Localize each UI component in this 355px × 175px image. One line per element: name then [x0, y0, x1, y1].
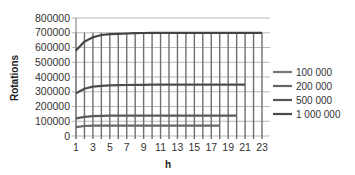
x-tick-label: 17 — [205, 141, 217, 153]
y-tick-label: 100000 — [35, 115, 70, 127]
y-tick-label: 500000 — [35, 56, 70, 68]
y-tick-label: 600000 — [35, 41, 70, 53]
series-line — [76, 126, 220, 128]
x-tick-label: 13 — [172, 141, 184, 153]
y-tick-label: 300000 — [35, 85, 70, 97]
x-tick-label: 19 — [222, 141, 234, 153]
legend: 100 000200 000500 0001 000 000 — [273, 67, 341, 120]
x-tick-label: 3 — [90, 141, 96, 153]
x-tick-label: 7 — [124, 141, 130, 153]
legend-label: 200 000 — [296, 81, 333, 92]
y-tick-label: 200000 — [35, 100, 70, 112]
legend-label: 500 000 — [296, 95, 333, 106]
y-tick-label: 0 — [64, 130, 70, 142]
y-axis-ticks: 0100000200000300000400000500000600000700… — [35, 12, 70, 142]
x-tick-label: 15 — [189, 141, 201, 153]
y-tick-label: 400000 — [35, 71, 70, 83]
gridlines — [72, 18, 270, 139]
legend-label: 100 000 — [296, 67, 333, 78]
x-tick-label: 21 — [239, 141, 251, 153]
x-tick-label: 23 — [256, 141, 268, 153]
line-chart: 0100000200000300000400000500000600000700… — [0, 0, 355, 175]
series-line — [76, 116, 237, 119]
x-tick-label: 5 — [107, 141, 113, 153]
legend-label: 1 000 000 — [296, 109, 341, 120]
y-tick-label: 800000 — [35, 12, 70, 24]
x-axis-title: h — [165, 159, 171, 170]
y-axis-title: Rotations — [9, 55, 20, 102]
x-tick-label: 11 — [155, 141, 166, 153]
x-axis-ticks: 1357911131517192123 — [73, 141, 268, 153]
x-tick-label: 9 — [141, 141, 147, 153]
x-tick-label: 1 — [73, 141, 79, 153]
y-tick-label: 700000 — [35, 26, 70, 38]
